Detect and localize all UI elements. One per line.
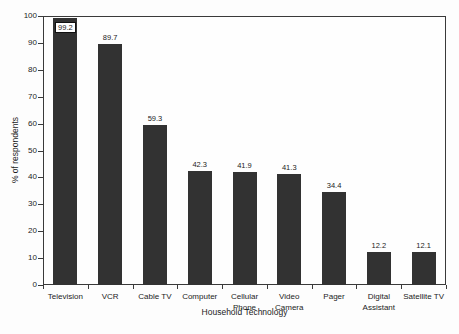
y-tick-mark [38,16,43,17]
y-tick-mark [38,258,43,259]
y-tick-mark [38,177,43,178]
y-tick-mark [38,70,43,71]
y-tick-mark [38,43,43,44]
bar [412,252,436,285]
y-tick-mark [38,124,43,125]
x-tick-mark [88,285,89,289]
bar-value-label: 41.3 [267,163,311,172]
y-tick-label: 80 [5,65,37,75]
bar [233,172,257,285]
bar-value-label: 99.2 [43,22,87,33]
y-tick-label: 100 [5,11,37,21]
bar [53,18,77,285]
x-tick-mark [177,285,178,289]
x-tick-mark [133,285,134,289]
x-axis-title: Household Technology [43,307,446,317]
x-tick-mark [401,285,402,289]
bar [188,171,212,285]
y-tick-label: 90 [5,38,37,48]
bar [98,44,122,285]
x-tick-mark [312,285,313,289]
y-tick-mark [38,231,43,232]
x-tick-mark [356,285,357,289]
y-tick-label: 10 [5,253,37,263]
y-tick-mark [38,97,43,98]
y-tick-label: 70 [5,92,37,102]
x-tick-mark [446,285,447,289]
bar [277,174,301,285]
y-tick-label: 30 [5,199,37,209]
bar-value-label: 59.3 [133,114,177,123]
boxed-bar-value-label: 99.2 [55,22,76,33]
y-tick-label: 0 [5,280,37,290]
chart-figure: 0102030405060708090100 99.289.759.342.34… [0,0,459,334]
x-tick-mark [43,285,44,289]
bar-value-label: 12.2 [357,241,401,250]
x-tick-mark [267,285,268,289]
y-tick-mark [38,151,43,152]
bar [322,192,346,285]
bar-value-label: 89.7 [88,33,132,42]
bar [367,252,391,285]
bar-value-label: 12.1 [402,241,446,250]
x-tick-mark [222,285,223,289]
bar-value-label: 42.3 [178,160,222,169]
x-category-label: Satellite TV [393,291,454,302]
y-tick-mark [38,204,43,205]
bar-value-label: 41.9 [223,161,267,170]
bar [143,125,167,285]
y-axis-title: % of respondents [10,117,20,183]
bar-value-label: 34.4 [312,181,356,190]
y-tick-label: 20 [5,226,37,236]
